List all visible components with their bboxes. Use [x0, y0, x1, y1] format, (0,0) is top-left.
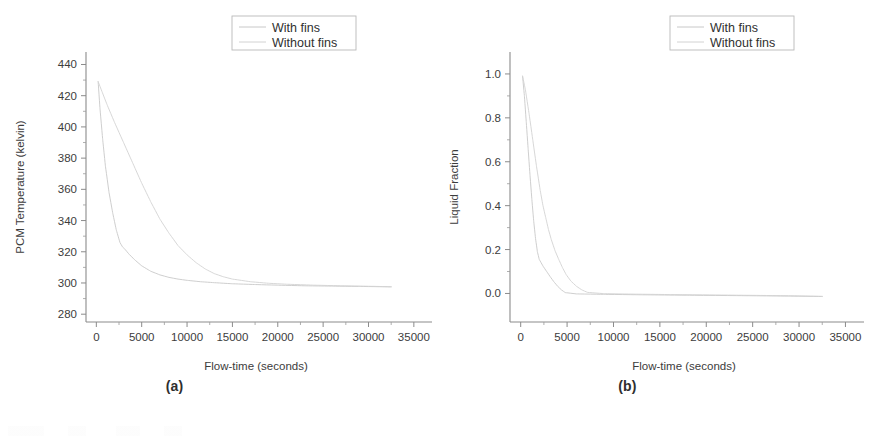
x-tick-label: 10000: [171, 331, 203, 343]
series-line-without-fins: [523, 76, 823, 296]
y-tick-label: 420: [58, 90, 77, 102]
y-tick-label: 400: [58, 121, 77, 133]
x-tick-label: 25000: [737, 331, 769, 343]
y-tick-label: 320: [58, 246, 77, 258]
legend-label-with-fins: With fins: [710, 21, 758, 35]
y-tick-label: 380: [58, 152, 77, 164]
x-tick-label: 35000: [398, 331, 430, 343]
page-footer-artifact: [8, 426, 308, 436]
chart-a-svg: 2803003203403603804004204400500010000150…: [0, 0, 443, 400]
chart-panel-a: 2803003203403603804004204400500010000150…: [0, 0, 443, 415]
y-tick-label: 440: [58, 58, 77, 70]
x-tick-label: 20000: [262, 331, 294, 343]
y-tick-label: 0.8: [485, 112, 501, 124]
y-axis-title-b: Liquid Fraction: [448, 149, 460, 224]
chart-b-svg: 0.00.20.40.60.81.00500010000150002000025…: [440, 0, 883, 400]
y-tick-label: 360: [58, 183, 77, 195]
x-axis-title-b: Flow-time (seconds): [632, 360, 736, 372]
chart-panel-b: 0.00.20.40.60.81.00500010000150002000025…: [440, 0, 883, 415]
x-tick-label: 35000: [829, 331, 861, 343]
subfigure-caption-a: (a): [0, 378, 396, 394]
x-tick-label: 5000: [554, 331, 580, 343]
legend-label-without-fins: Without fins: [272, 36, 337, 50]
y-tick-label: 0.2: [485, 244, 501, 256]
x-tick-label: 15000: [216, 331, 248, 343]
y-tick-label: 300: [58, 277, 77, 289]
subfigure-caption-b: (b): [406, 378, 849, 394]
y-axis-title-a: PCM Temperature (kelvin): [14, 120, 26, 254]
x-tick-label: 0: [517, 331, 523, 343]
x-axis-title-a: Flow-time (seconds): [204, 360, 308, 372]
x-tick-label: 5000: [129, 331, 155, 343]
x-tick-label: 25000: [307, 331, 339, 343]
y-tick-label: 0.4: [485, 200, 502, 212]
y-tick-label: 340: [58, 215, 77, 227]
legend-label-with-fins: With fins: [272, 21, 320, 35]
x-tick-label: 30000: [353, 331, 385, 343]
x-tick-label: 10000: [597, 331, 629, 343]
x-tick-label: 15000: [644, 331, 676, 343]
x-tick-label: 20000: [690, 331, 722, 343]
x-tick-label: 0: [93, 331, 99, 343]
series-line-with-fins: [523, 76, 823, 296]
figure-container: 2803003203403603804004204400500010000150…: [0, 0, 887, 438]
y-tick-label: 0.0: [485, 287, 501, 299]
y-tick-label: 1.0: [485, 68, 501, 80]
y-tick-label: 280: [58, 308, 77, 320]
series-line-without-fins: [98, 82, 391, 287]
legend-label-without-fins: Without fins: [710, 36, 775, 50]
y-tick-label: 0.6: [485, 156, 501, 168]
x-tick-label: 30000: [783, 331, 815, 343]
